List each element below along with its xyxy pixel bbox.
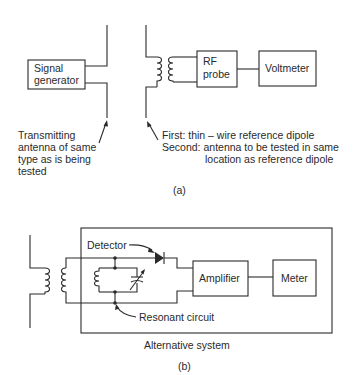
input-coil-secondary-icon [62, 268, 67, 294]
resonant-pointer-line [117, 307, 136, 317]
amplifier-label: Amplifier [199, 272, 240, 284]
transmit-note-line-3: type as is being [18, 153, 91, 165]
rf-probe-label-2: probe [203, 68, 230, 80]
return-to-amplifier-wire [115, 291, 193, 303]
receive-note-arrow-line [149, 124, 158, 140]
receive-antenna-lower-arm [146, 87, 157, 118]
transmit-note-arrowhead-icon [104, 120, 109, 127]
receive-antenna-upper-arm [146, 25, 157, 57]
tank-coil-icon [95, 268, 100, 292]
figure-a-caption: (a) [173, 184, 186, 196]
coupling-coil-secondary-icon [169, 57, 174, 82]
detector-label: Detector [87, 239, 127, 251]
tank-top-right-wire [115, 268, 137, 277]
transmit-note-line-1: Transmitting [18, 129, 76, 141]
transmit-note-line-2: antenna of same [18, 141, 96, 153]
signal-generator-label-2: generator [34, 74, 79, 86]
alternative-system-label: Alternative system [144, 339, 230, 351]
circuit-top-rail-left [66, 258, 115, 268]
antenna-upper-arm [30, 235, 45, 268]
antenna-measurement-diagram: Signal generator RF probe Voltmeter Tran… [0, 0, 355, 375]
circuit-bottom-rail-left [66, 294, 115, 303]
detector-diode-icon [155, 252, 164, 264]
figure-b-caption: (b) [178, 360, 191, 372]
coupling-coil-primary-icon [157, 57, 162, 87]
variable-capacitor-arrowhead-icon [141, 269, 146, 275]
antenna-lower-arm [30, 294, 45, 328]
transmit-antenna-lower-arm [85, 83, 107, 118]
detector-pointer-arrowhead-icon [148, 248, 155, 254]
diode-to-amplifier-wire [164, 258, 193, 268]
resonant-circuit-label: Resonant circuit [139, 311, 214, 323]
figure-a: Signal generator RF probe Voltmeter Tran… [18, 25, 339, 196]
detector-pointer-line [129, 245, 152, 250]
figure-b: Detector Resonant circuit Amplifier Mete… [30, 228, 332, 372]
input-coil-primary-icon [45, 268, 50, 294]
receive-note-line-3: location as reference dipole [205, 153, 334, 165]
signal-generator-label-1: Signal [34, 62, 63, 74]
receive-note-line-1: First: thin – wire reference dipole [162, 129, 314, 141]
meter-label: Meter [281, 272, 308, 284]
transmit-antenna-upper-arm [85, 25, 107, 66]
receive-note-line-2: Second: antenna to be tested in same [162, 141, 339, 153]
transmit-note-line-4: tested [18, 165, 47, 177]
rf-probe-label-1: RF [203, 55, 217, 67]
voltmeter-label: Voltmeter [265, 62, 310, 74]
